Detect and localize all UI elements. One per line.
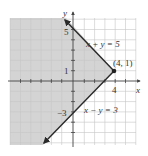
vertex-point [112, 69, 117, 74]
tick-label-y-neg3: −3 [57, 108, 67, 118]
tick-label-y-5: 5 [64, 27, 69, 37]
tick-label-x-4: 4 [112, 85, 117, 95]
y-axis-label: y [62, 8, 67, 18]
x-axis-label: x [135, 85, 140, 95]
label-line-x-plus-y-eq-5: x + y = 5 [85, 39, 120, 49]
inequality-graph: y x 5 1 −3 4 x + y = 5 x − y = 3 (4, 1) [0, 0, 148, 156]
label-line-x-minus-y-eq-3: x − y = 3 [83, 105, 118, 115]
vertex-label: (4, 1) [113, 58, 133, 68]
tick-label-y-1: 1 [64, 66, 69, 76]
